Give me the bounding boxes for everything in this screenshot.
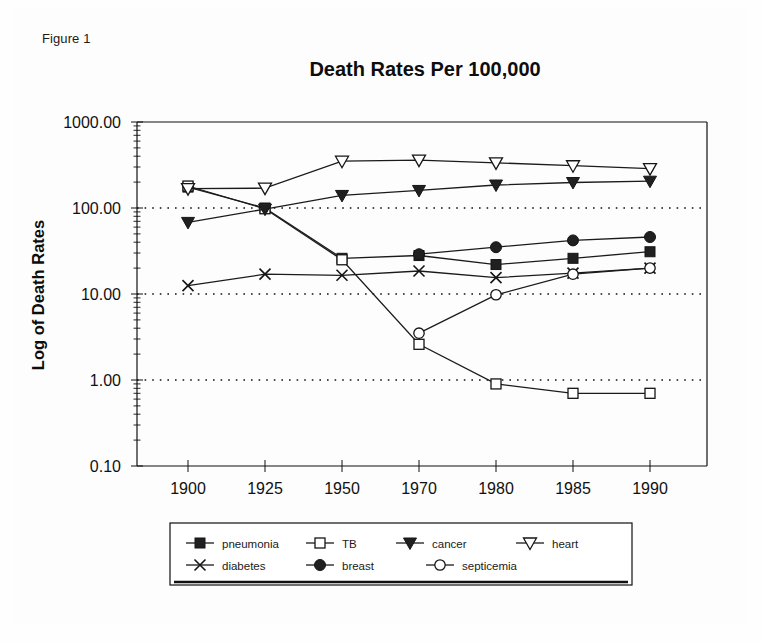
data-point-marker-open-circle [435, 560, 445, 570]
data-point-marker-filled-triangle-down [182, 217, 195, 229]
data-point-marker-open-circle [568, 269, 578, 279]
legend-label: septicemia [462, 560, 518, 572]
data-point-marker-open-circle [491, 290, 501, 300]
legend-item-septicemia[interactable]: septicemia [426, 560, 518, 572]
data-point-marker-open-square [491, 379, 501, 389]
legend-label: heart [552, 538, 579, 550]
data-point-marker-open-square [645, 388, 655, 398]
x-tick-label: 1985 [555, 480, 591, 497]
data-point-marker-filled-square [195, 538, 205, 548]
plot-frame [137, 122, 707, 466]
x-tick-label: 1980 [478, 480, 514, 497]
data-point-marker-open-square [414, 339, 424, 349]
data-point-marker-filled-circle [568, 235, 579, 246]
x-tick-label: 1925 [247, 480, 283, 497]
legend-item-pneumonia[interactable]: pneumonia [186, 538, 280, 550]
series-breast [414, 232, 656, 260]
data-point-marker-open-circle [414, 328, 424, 338]
legend-label: cancer [432, 538, 467, 550]
data-point-marker-filled-circle [315, 560, 326, 571]
data-point-marker-open-triangle-down [644, 164, 657, 176]
legend-label: TB [342, 538, 357, 550]
data-point-marker-open-triangle-down [259, 183, 272, 195]
data-point-marker-filled-square [645, 247, 655, 257]
x-axis-tick-labels: 1900192519501970198019851990 [170, 480, 668, 497]
y-tick-label: 0.10 [90, 458, 121, 475]
y-tick-label: 10.00 [81, 286, 121, 303]
data-point-marker-filled-circle [491, 242, 502, 253]
y-axis-label: Log of Death Rates [29, 220, 47, 370]
data-point-marker-filled-triangle-down [644, 176, 657, 188]
chart-legend: pneumoniaTBcancerheartdiabetesbreastsept… [170, 523, 632, 585]
legend-label: diabetes [222, 560, 266, 572]
gridlines [137, 208, 707, 380]
chart-title: Death Rates Per 100,000 [309, 58, 540, 80]
data-point-marker-open-circle [645, 263, 655, 273]
data-point-marker-open-triangle-down [336, 156, 349, 168]
x-tick-label: 1990 [632, 480, 668, 497]
series-cancer [182, 176, 657, 229]
series-line-septicemia [419, 268, 650, 333]
data-point-marker-filled-circle [645, 232, 656, 243]
data-point-marker-open-square [568, 388, 578, 398]
legend-label: pneumonia [222, 538, 280, 550]
data-point-marker-filled-square [491, 260, 501, 270]
legend-label: breast [342, 560, 375, 572]
y-axis-tick-labels: 1000.00100.0010.001.000.10 [63, 114, 121, 475]
x-tick-label: 1900 [170, 480, 206, 497]
series-layer [182, 155, 657, 398]
data-point-marker-open-square [315, 538, 325, 548]
data-point-marker-filled-circle [414, 249, 425, 260]
data-point-marker-open-square [337, 255, 347, 265]
series-line-TB [188, 186, 650, 393]
figure-page: Figure 1 Death Rates Per 100,000 Log of … [0, 0, 763, 642]
series-diabetes [183, 263, 656, 292]
legend-box [170, 523, 632, 585]
y-tick-label: 1.00 [90, 372, 121, 389]
x-tick-label: 1970 [401, 480, 437, 497]
data-point-marker-filled-square [568, 253, 578, 263]
y-tick-label: 100.00 [72, 200, 121, 217]
y-tick-label: 1000.00 [63, 114, 121, 131]
x-tick-label: 1950 [324, 480, 360, 497]
death-rates-line-chart: Death Rates Per 100,000 Log of Death Rat… [0, 0, 763, 642]
series-TB [183, 181, 655, 398]
series-line-breast [419, 237, 650, 254]
